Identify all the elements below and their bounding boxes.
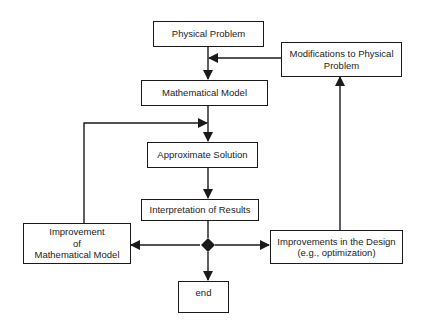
decision-diamond	[201, 238, 215, 252]
node-modifications-to-physical-problem: Modifications to Physical Problem	[281, 42, 402, 77]
node-interpretation-of-results: Interpretation of Results	[141, 199, 259, 221]
node-improvement-of-mathematical-model: Improvement of Mathematical Model	[23, 223, 131, 264]
node-physical-problem: Physical Problem	[153, 21, 264, 47]
node-mathematical-model: Mathematical Model	[141, 80, 268, 106]
node-improvements-in-the-design: Improvements in the Design (e.g., optimi…	[270, 230, 403, 264]
node-approximate-solution: Approximate Solution	[147, 142, 258, 168]
node-end: end	[178, 281, 229, 313]
